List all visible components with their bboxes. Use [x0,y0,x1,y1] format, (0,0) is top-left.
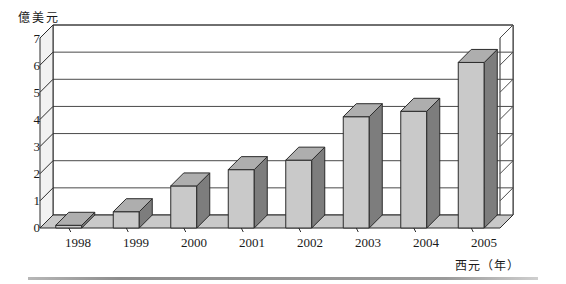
bar-2001 [228,157,267,228]
x-tick-label: 1999 [108,235,164,251]
y-tick-label: 4 [22,112,40,128]
y-tick-label: 3 [22,139,40,155]
back-wall [53,25,513,215]
y-tick-label: 7 [22,31,40,47]
bar-2002 [286,147,325,228]
y-tick-label: 1 [22,193,40,209]
right-wall [500,25,513,228]
x-axis-tick [69,228,71,232]
x-axis-tick [184,228,186,232]
x-axis-title: 西元（年） [455,256,520,273]
x-tick-label: 2002 [282,235,338,251]
y-tick-label: 6 [22,58,40,74]
x-tick-label: 1998 [50,235,106,251]
floor [40,215,513,228]
x-tick-label: 2000 [166,235,222,251]
bar-2003 [343,104,382,228]
x-tick-label: 2001 [224,235,280,251]
bar-chart: 億美元 7 6 5 4 3 2 1 0 1998 1999 2000 2001 … [0,0,566,284]
y-axis-wall [40,25,53,228]
x-axis-tick [299,228,301,232]
bar-2000 [171,173,210,228]
y-tick-label: 5 [22,85,40,101]
bar-2005 [458,49,497,228]
y-tick-label: 2 [22,166,40,182]
x-axis-tick [471,228,473,232]
x-axis-tick [126,228,128,232]
x-axis-tick [414,228,416,232]
y-axis-title: 億美元 [18,8,60,25]
bar-2004 [401,98,440,228]
x-tick-label: 2004 [398,235,454,251]
x-axis-tick [241,228,243,232]
x-tick-label: 2003 [340,235,396,251]
x-tick-label: 2005 [456,235,512,251]
bottom-divider [28,277,538,280]
y-tick-label: 0 [22,220,40,236]
x-axis-tick [356,228,358,232]
